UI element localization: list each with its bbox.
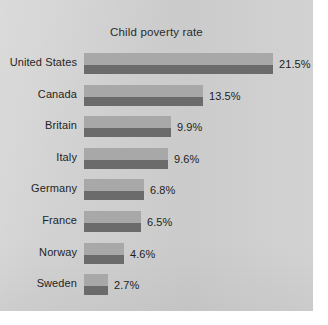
bar-category-label: United States — [0, 56, 77, 68]
bar-row: Germany6.8% — [0, 179, 313, 211]
bar-row: Italy9.6% — [0, 148, 313, 180]
bar — [84, 53, 273, 74]
bar-row: United States21.5% — [0, 53, 313, 85]
bar-band-light — [84, 85, 203, 97]
bar-value-label: 6.5% — [147, 216, 172, 228]
bar-band-light — [84, 274, 108, 286]
bar-band-light — [84, 148, 168, 160]
bar-chart-plot-area: United States21.5%Canada13.5%Britain9.9%… — [0, 53, 313, 306]
bar-category-label: Britain — [0, 119, 77, 131]
bar — [84, 211, 141, 232]
bar — [84, 148, 168, 169]
bar-category-label: Norway — [0, 246, 77, 258]
bar-band-dark — [84, 97, 203, 106]
bar-value-label: 4.6% — [130, 248, 155, 260]
bar-band-dark — [84, 128, 171, 137]
bar-category-label: Sweden — [0, 277, 77, 289]
bar — [84, 179, 144, 200]
bar — [84, 243, 124, 264]
bar-band-dark — [84, 223, 141, 232]
chart-title: Child poverty rate — [0, 26, 313, 38]
bar-category-label: Canada — [0, 88, 77, 100]
bar-band-dark — [84, 160, 168, 169]
bar-value-label: 2.7% — [114, 279, 139, 291]
bar-category-label: Italy — [0, 151, 77, 163]
bar-band-dark — [84, 65, 273, 74]
bar-band-dark — [84, 286, 108, 295]
bar-band-light — [84, 211, 141, 223]
bar-band-dark — [84, 191, 144, 200]
bar-row: France6.5% — [0, 211, 313, 243]
bar — [84, 274, 108, 295]
bar-band-light — [84, 243, 124, 255]
bar-band-light — [84, 53, 273, 65]
bar-value-label: 6.8% — [150, 184, 175, 196]
chart-panel: Child poverty rate United States21.5%Can… — [0, 0, 313, 311]
bar-row: Britain9.9% — [0, 116, 313, 148]
bar-row: Canada13.5% — [0, 85, 313, 117]
bar — [84, 85, 203, 106]
bar-value-label: 9.9% — [177, 121, 202, 133]
bar-band-light — [84, 116, 171, 128]
bar-category-label: Germany — [0, 182, 77, 194]
bar-band-dark — [84, 255, 124, 264]
bar-row: Sweden2.7% — [0, 274, 313, 306]
bar-row: Norway4.6% — [0, 243, 313, 275]
bar — [84, 116, 171, 137]
bar-band-light — [84, 179, 144, 191]
bar-value-label: 9.6% — [174, 153, 199, 165]
bar-category-label: France — [0, 214, 77, 226]
bar-value-label: 21.5% — [279, 58, 311, 70]
bar-value-label: 13.5% — [209, 90, 241, 102]
